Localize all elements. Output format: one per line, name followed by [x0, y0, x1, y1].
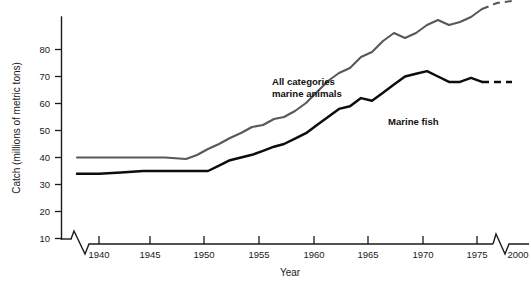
- annotation-all-categories-line1: All categories: [272, 76, 335, 87]
- y-tick-label: 30: [39, 179, 50, 190]
- x-tick-label: 1945: [139, 249, 160, 260]
- y-axis-ticks: [55, 50, 62, 239]
- y-tick-label: 40: [39, 152, 50, 163]
- x-axis-tick-labels: 1940 1945 1950 1955 1960 1965 1970 1975 …: [88, 249, 528, 260]
- x-tick-label: 2000: [507, 249, 528, 260]
- x-tick-label: 1965: [357, 249, 378, 260]
- x-axis-ticks: [99, 236, 477, 244]
- annotation-marine-fish-line1: Marine fish: [388, 116, 439, 127]
- y-tick-label: 70: [39, 71, 50, 82]
- y-tick-label: 60: [39, 98, 50, 109]
- y-tick-label: 80: [39, 44, 50, 55]
- y-axis-tick-labels: 80 70 60 50 40 30 20 10: [39, 44, 50, 244]
- series-all-dashed-extension: [482, 1, 512, 9]
- x-tick-label: 1940: [88, 249, 109, 260]
- annotation-marine-fish: Marine fish: [388, 116, 439, 127]
- y-tick-label: 20: [39, 206, 50, 217]
- x-tick-label: 1955: [248, 249, 269, 260]
- y-tick-label: 50: [39, 125, 50, 136]
- y-axis-title: Catch (millions of metric tons): [11, 62, 22, 194]
- x-tick-label: 1975: [466, 249, 487, 260]
- y-tick-label: 10: [39, 233, 50, 244]
- x-tick-label: 1960: [303, 249, 324, 260]
- annotation-all-categories: All categories marine animals: [272, 76, 342, 99]
- annotation-all-categories-line2: marine animals: [272, 88, 342, 99]
- catch-line-chart: 80 70 60 50 40 30 20 10 Catch (millions …: [0, 0, 531, 281]
- x-tick-label: 1970: [412, 249, 433, 260]
- x-tick-label: 1950: [193, 249, 214, 260]
- x-axis-title: Year: [280, 267, 301, 278]
- chart-container: 80 70 60 50 40 30 20 10 Catch (millions …: [0, 0, 531, 281]
